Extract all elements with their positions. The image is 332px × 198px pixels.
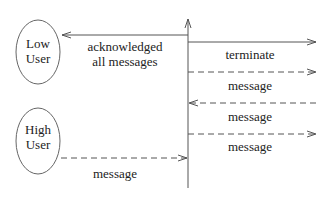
actor-high-user: High User [16,108,60,174]
acknowledged-label-line2: all messages [92,54,157,69]
sequence-diagram: Low User High User acknowledged all mess… [0,0,332,198]
message-label: message [93,166,137,181]
message-label: message [228,78,272,93]
actor-low-user: Low User [16,20,60,84]
acknowledged-label-line1: acknowledged [87,39,163,54]
message-in: message [189,103,316,124]
message-out-2: message [188,134,316,154]
message-label: message [228,109,272,124]
high-user-label-line2: User [26,137,51,152]
message-from-high-user: message [61,158,187,181]
message-out-1: message [188,72,316,93]
high-user-label-line1: High [25,122,52,137]
terminate-label: terminate [225,47,274,62]
low-user-label-line2: User [26,51,51,66]
message-label: message [228,139,272,154]
message-terminate: terminate [188,42,316,62]
low-user-label-line1: Low [26,36,50,51]
message-acknowledged: acknowledged all messages [62,35,188,69]
